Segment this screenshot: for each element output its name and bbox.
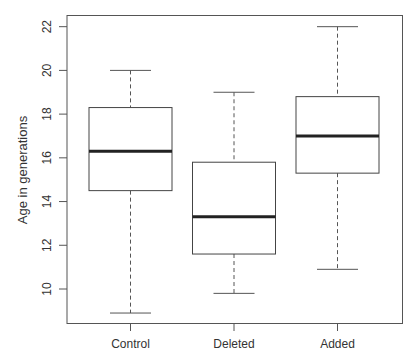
- iqr-box: [89, 108, 172, 191]
- y-tick-label: 22: [40, 20, 54, 34]
- box-control: [89, 70, 172, 313]
- y-tick-label: 20: [40, 63, 54, 77]
- y-tick-label: 12: [40, 238, 54, 252]
- box-deleted: [193, 92, 276, 293]
- boxes-group: [89, 27, 379, 313]
- y-tick-label: 14: [40, 195, 54, 209]
- iqr-box: [193, 162, 276, 254]
- y-axis-title: Age in generations: [15, 115, 30, 224]
- x-tick-label: Added: [320, 337, 355, 351]
- y-tick-label: 16: [40, 151, 54, 165]
- y-tick-label: 10: [40, 282, 54, 296]
- y-tick-label: 18: [40, 107, 54, 121]
- x-tick-label: Control: [111, 337, 150, 351]
- x-tick-label: Deleted: [213, 337, 254, 351]
- y-axis: 10121416182022: [40, 20, 67, 296]
- x-axis: ControlDeletedAdded: [111, 324, 355, 352]
- boxplot-chart: 10121416182022 ControlDeletedAdded Age i…: [0, 0, 419, 362]
- box-added: [296, 27, 379, 270]
